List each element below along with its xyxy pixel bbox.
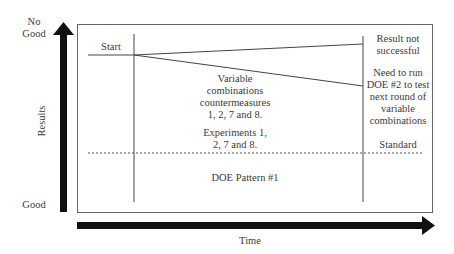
middle-line-4: 1, 2, 7 and 8. [185,109,285,121]
doe-pattern-label: DOE Pattern #1 [200,172,290,184]
middle-line-1: Variable [185,73,285,85]
experiments-text: Experiments 1, 2, 7 and 8. [185,127,285,151]
need-doe2-text: Need to run DOE #2 to test next round of… [362,67,434,127]
y-top-label: No Good [14,16,54,40]
result-line-2: successful [364,45,432,57]
need-line-4: variable [362,103,434,115]
need-line-5: combinations [362,115,434,127]
upper-trend-line [134,44,363,55]
x-axis-arrow-icon [77,216,435,235]
result-text: Result not successful [364,33,432,57]
need-line-3: next round of [362,91,434,103]
experiments-line-2: 2, 7 and 8. [185,139,285,151]
need-line-1: Need to run [362,67,434,79]
experiments-line-1: Experiments 1, [185,127,285,139]
standard-label: Standard [364,139,432,151]
middle-line-3: countermeasures [185,97,285,109]
start-label: Start [93,41,129,53]
y-bottom-label: Good [14,199,54,211]
y-axis-title: Results [36,101,48,141]
y-top-label-line1: No [14,16,54,28]
variable-combinations-text: Variable combinations countermeasures 1,… [185,73,285,121]
y-top-label-line2: Good [14,28,54,40]
need-line-2: DOE #2 to test [362,79,434,91]
x-axis-title: Time [230,235,270,247]
middle-line-2: combinations [185,85,285,97]
y-axis-arrow-icon [53,22,74,212]
result-line-1: Result not [364,33,432,45]
